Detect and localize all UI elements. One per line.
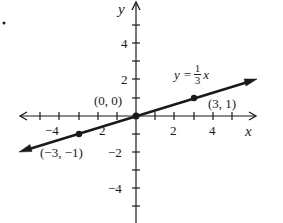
x-axis-label: x bbox=[245, 124, 252, 139]
fraction-denominator: 3 bbox=[195, 75, 201, 86]
point-label-neg3-neg1: (−3, −1) bbox=[40, 146, 83, 159]
y-tick-label-neg4: −4 bbox=[108, 182, 122, 195]
coordinate-plane bbox=[0, 0, 283, 223]
point-label-origin: (0, 0) bbox=[94, 94, 122, 107]
y-tick-label-4: 4 bbox=[121, 37, 128, 50]
x-tick-label-neg4: −4 bbox=[45, 124, 59, 137]
point-origin bbox=[133, 113, 140, 120]
graph-figure: y x 4 2 −2 −4 −4 2 2 4 (0, 0) (3, 1) (−3… bbox=[0, 0, 283, 223]
point-label-3-1: (3, 1) bbox=[208, 97, 236, 110]
point-3-1 bbox=[191, 95, 197, 101]
equation-label: y = 1 3 x bbox=[174, 63, 209, 86]
equation-variable: x bbox=[203, 68, 209, 81]
stray-dot bbox=[3, 22, 6, 25]
x-tick-label-neg2: 2 bbox=[99, 124, 106, 137]
y-tick-label-2: 2 bbox=[121, 73, 128, 86]
y-axis-label: y bbox=[118, 2, 125, 17]
x-tick-label-2: 2 bbox=[170, 124, 177, 137]
x-tick-label-4: 4 bbox=[209, 124, 216, 137]
y-tick-label-neg2: −2 bbox=[108, 146, 122, 159]
equation-fraction: 1 3 bbox=[194, 63, 202, 86]
point-neg3-neg1 bbox=[76, 131, 82, 137]
equation-lhs: y = bbox=[174, 68, 192, 81]
